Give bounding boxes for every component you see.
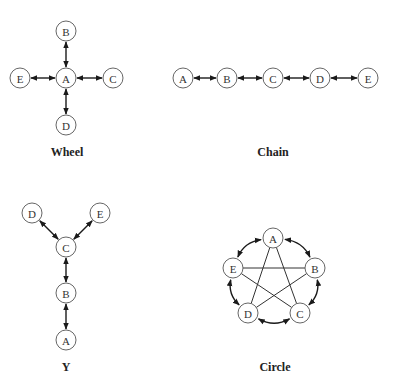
node-label: B (311, 263, 318, 275)
node-y-b: B (56, 283, 76, 303)
node-chain-d: D (310, 68, 330, 88)
caption-circle: Circle (259, 360, 291, 374)
node-label: B (223, 73, 230, 85)
caption-y: Y (62, 360, 71, 374)
node-circle-c: C (290, 303, 310, 323)
edge-circle-b-d (256, 274, 306, 308)
node-wheel-a: A (56, 68, 76, 88)
network-diagram: ABCDEABCDEABCDEABCDE WheelChainYCircle (0, 0, 395, 385)
node-chain-b: B (217, 68, 237, 88)
edge-circle-a-d (251, 247, 270, 303)
node-label: A (269, 233, 277, 245)
node-label: E (97, 208, 104, 220)
node-circle-e: E (223, 258, 243, 278)
edge-circle-a-b (285, 239, 310, 257)
node-wheel-d: D (56, 115, 76, 135)
node-label: C (269, 73, 276, 85)
node-label: D (28, 208, 36, 220)
nodes-layer: ABCDEABCDEABCDEABCDE (10, 21, 378, 350)
node-label: B (62, 26, 69, 38)
node-label: B (62, 288, 69, 300)
node-y-c: C (56, 237, 76, 257)
edge-circle-c-e (241, 274, 291, 308)
node-label: A (179, 73, 187, 85)
node-chain-a: A (173, 68, 193, 88)
node-label: D (244, 308, 252, 320)
node-chain-e: E (358, 68, 378, 88)
node-label: C (62, 242, 69, 254)
node-circle-d: D (238, 303, 258, 323)
node-y-e: E (90, 203, 110, 223)
node-circle-a: A (263, 228, 283, 248)
edge-y-c-e (74, 221, 92, 239)
node-wheel-e: E (10, 68, 30, 88)
node-circle-b: B (305, 258, 325, 278)
edge-circle-e-a (238, 240, 261, 257)
caption-wheel: Wheel (51, 145, 84, 159)
node-label: E (230, 263, 237, 275)
node-label: A (62, 73, 70, 85)
node-label: E (17, 73, 24, 85)
node-label: E (365, 73, 372, 85)
captions-layer: WheelChainYCircle (51, 145, 292, 374)
caption-chain: Chain (257, 145, 289, 159)
node-label: C (109, 73, 116, 85)
node-wheel-c: C (103, 68, 123, 88)
edge-circle-d-e (230, 280, 239, 305)
edge-circle-c-d (258, 319, 289, 323)
node-label: D (316, 73, 324, 85)
node-y-d: D (22, 203, 42, 223)
edge-y-c-d (40, 221, 58, 239)
node-label: A (62, 335, 70, 347)
node-wheel-b: B (56, 21, 76, 41)
edges-layer (31, 42, 357, 329)
node-label: D (62, 120, 70, 132)
node-y-a: A (56, 330, 76, 350)
node-label: C (296, 308, 303, 320)
network-wheel-nodes: ABCDE (10, 21, 123, 135)
edge-circle-a-c (276, 247, 296, 303)
edge-circle-b-c (309, 280, 318, 305)
node-chain-c: C (263, 68, 283, 88)
network-circle-nodes: ABCDE (223, 228, 325, 323)
